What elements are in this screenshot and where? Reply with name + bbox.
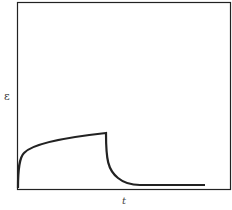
- x-axis-label: t: [122, 195, 126, 206]
- chart-plot: [0, 0, 232, 210]
- plot-frame: [18, 3, 231, 190]
- strain-curve: [18, 133, 205, 188]
- y-axis-label: ε: [4, 90, 10, 103]
